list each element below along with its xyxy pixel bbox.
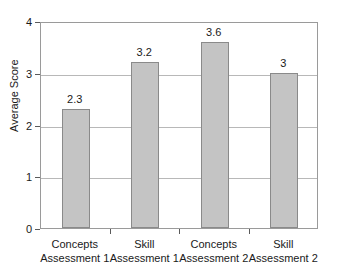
x-axis-label-line: Assessment 1 <box>110 251 179 265</box>
bar[interactable] <box>270 73 298 228</box>
bar-slot <box>180 23 250 228</box>
y-axis-tick-mark <box>35 22 40 23</box>
x-axis-label-line: Concepts <box>179 237 248 251</box>
y-axis-tick-mark <box>35 229 40 230</box>
bar-value-label: 2.3 <box>67 93 82 105</box>
x-axis-tick-mark <box>110 229 111 234</box>
y-axis-tick-label: 3 <box>0 68 32 80</box>
bar-chart-figure: Average Score 012342.3ConceptsAssessment… <box>0 0 338 276</box>
bar-slot <box>250 23 320 228</box>
x-axis-label-line: Assessment 2 <box>249 251 318 265</box>
y-axis-tick-label: 0 <box>0 223 32 235</box>
y-axis-tick-mark <box>35 74 40 75</box>
y-axis-tick-label: 4 <box>0 16 32 28</box>
x-axis-label-line: Assessment 1 <box>40 251 109 265</box>
x-axis-category-label: SkillAssessment 2 <box>249 237 318 265</box>
x-axis-label-line: Concepts <box>40 237 109 251</box>
y-axis-tick-label: 1 <box>0 171 32 183</box>
bar-value-label: 3 <box>280 57 286 69</box>
bar-slot <box>41 23 111 228</box>
y-axis-tick-mark <box>35 177 40 178</box>
x-axis-category-label: SkillAssessment 1 <box>110 237 179 265</box>
bar-series <box>41 23 317 228</box>
plot-area <box>40 22 318 229</box>
x-axis-label-line: Skill <box>110 237 179 251</box>
bar-value-label: 3.6 <box>206 26 221 38</box>
x-axis-tick-mark <box>249 229 250 234</box>
y-axis-tick-label: 2 <box>0 120 32 132</box>
x-axis-label-line: Assessment 2 <box>179 251 248 265</box>
bar[interactable] <box>201 42 229 228</box>
cut-off-title-text <box>0 0 338 5</box>
x-axis-tick-mark <box>179 229 180 234</box>
bar-value-label: 3.2 <box>137 46 152 58</box>
bar[interactable] <box>131 62 159 228</box>
bar[interactable] <box>62 109 90 228</box>
x-axis-label-line: Skill <box>249 237 318 251</box>
x-axis-category-label: ConceptsAssessment 2 <box>179 237 248 265</box>
x-axis-category-label: ConceptsAssessment 1 <box>40 237 109 265</box>
y-axis-tick-mark <box>35 126 40 127</box>
